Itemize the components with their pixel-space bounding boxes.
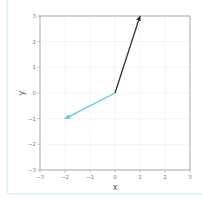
x-tick-label: −1 — [86, 174, 94, 180]
vector-1-arrow — [115, 16, 140, 93]
vector-plot: −3−2−10123−3−2−10123 x y — [0, 0, 202, 201]
x-tick-label: 0 — [113, 174, 117, 180]
x-tick-label: 1 — [138, 174, 142, 180]
y-tick-label: 3 — [33, 13, 37, 19]
x-tick-label: 3 — [188, 174, 192, 180]
x-axis-label: x — [113, 183, 118, 192]
y-tick-label: 0 — [33, 90, 37, 96]
y-tick-label: 2 — [33, 39, 37, 45]
y-tick-label: −1 — [28, 116, 36, 122]
y-tick-label: 1 — [33, 64, 37, 70]
y-axis-label: y — [17, 90, 26, 95]
x-tick-label: −2 — [61, 174, 69, 180]
y-tick-label: −3 — [28, 167, 37, 173]
x-tick-label: −3 — [36, 174, 45, 180]
y-tick-label: −2 — [28, 141, 36, 147]
x-tick-label: 2 — [163, 174, 167, 180]
